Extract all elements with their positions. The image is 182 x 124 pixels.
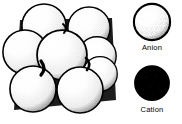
ion-type-legend: Anion Cation: [122, 0, 182, 124]
ionic-crystal-figure: Anion Cation: [0, 0, 182, 124]
legend-label-cation: Cation: [122, 105, 182, 114]
legend-label-anion: Anion: [122, 43, 182, 52]
anion-sphere-icon: [122, 2, 182, 42]
anion-cluster-panel: [0, 0, 122, 124]
sphere-bottom-right: [57, 67, 103, 113]
sphere-bottom-left: [10, 66, 56, 112]
legend-item-cation: Cation: [122, 64, 182, 114]
legend-item-anion: Anion: [122, 2, 182, 52]
anion-cluster-illustration: [0, 0, 122, 124]
cation-sphere-icon: [122, 64, 182, 104]
